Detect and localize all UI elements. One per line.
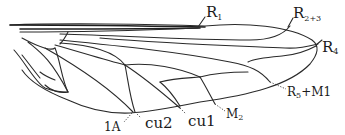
leader-r5m1	[270, 82, 286, 89]
alula-inner	[22, 55, 40, 78]
alula-branch	[40, 72, 55, 80]
label-cu2: cu2	[145, 114, 173, 132]
label-r4: R4	[322, 38, 338, 56]
m-vein-upper	[60, 43, 125, 65]
leader-cu1	[180, 108, 186, 114]
m2-vein	[200, 77, 215, 104]
label-m2: M2	[226, 107, 243, 122]
label-cu1: cu1	[188, 112, 216, 130]
label-r5m1: R5+M1	[287, 85, 331, 100]
label-r1: R1	[206, 3, 222, 22]
anal-lobe-vein	[22, 38, 55, 49]
cu-base	[55, 45, 125, 65]
label-1a: 1A	[104, 120, 121, 134]
m-crossvein	[125, 64, 200, 77]
leader-m2	[215, 104, 225, 111]
cu1-vein	[125, 65, 180, 108]
label-r2r3: R2+3	[293, 4, 321, 23]
leader-1a	[124, 113, 132, 122]
wing-venation-diagram: R1 R2+3 R4 R5+M1 M2 cu1 cu2 1A	[0, 0, 345, 135]
m-to-r5	[200, 72, 248, 77]
dm-cell-lower	[160, 77, 200, 82]
